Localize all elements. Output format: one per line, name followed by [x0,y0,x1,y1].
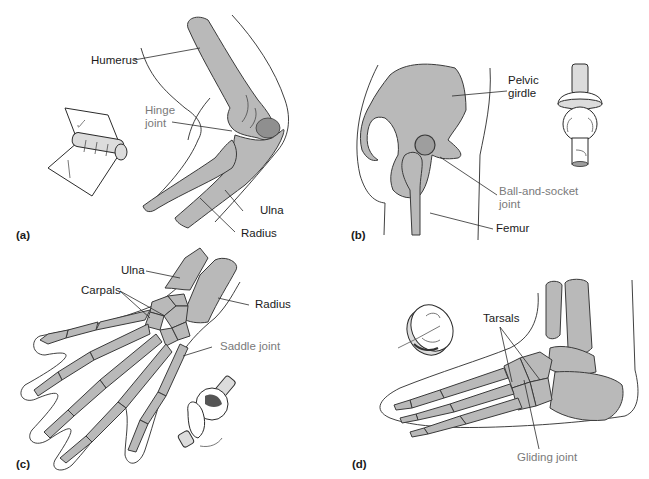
synovial-joints-figure: .bone { fill: #b9b9b9; stroke: #3a3a3a; … [0,0,649,479]
label-tarsals: Tarsals [483,312,519,325]
calcaneus-bone [550,372,623,421]
panel-a-elbow [48,15,289,228]
label-hinge-joint-line1: Hinge [145,104,175,117]
fibula-bone [546,281,562,339]
label-gliding-joint: Gliding joint [517,451,577,464]
label-saddle-joint: Saddle joint [220,340,280,353]
panel-b-hip [357,64,602,240]
label-humerus: Humerus [91,54,138,67]
label-ulna-elbow: Ulna [260,204,284,217]
ball-and-socket-model-icon [558,64,602,167]
panel-label-d: (d) [352,458,367,470]
label-pelvic-girdle-line2: girdle [508,87,536,100]
label-carpals: Carpals [81,284,121,297]
hip-socket [415,135,435,155]
tibia-bone [565,279,592,354]
arm-crease [188,98,210,140]
saddle-model-icon [177,375,236,448]
panel-label-c: (c) [16,458,30,470]
label-ball-socket-line2: joint [499,198,520,211]
label-hinge-joint-line2: joint [145,117,166,130]
label-radius-elbow: Radius [241,227,277,240]
label-femur: Femur [496,222,529,235]
panel-label-a: (a) [16,229,30,241]
label-radius-hand: Radius [255,298,291,311]
hinge-model-icon [48,108,127,196]
label-pelvic-girdle-line1: Pelvic [508,74,539,87]
leader-lines [120,48,540,449]
panel-c-hand [21,248,240,470]
diagram-artwork: .bone { fill: #b9b9b9; stroke: #3a3a3a; … [0,0,649,479]
panel-label-b: (b) [351,229,366,241]
label-ulna-hand: Ulna [121,264,145,277]
gliding-model-icon [398,297,461,363]
panel-d-foot [380,279,638,437]
label-ball-socket-line1: Ball-and-socket [499,185,578,198]
